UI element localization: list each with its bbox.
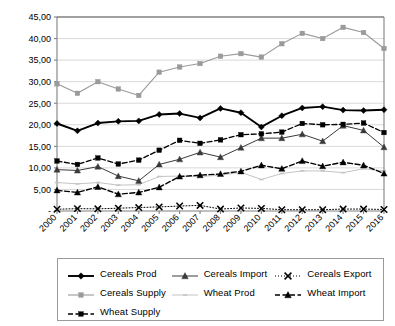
data-point xyxy=(177,111,183,117)
y-axis-tick-label: 5,00 xyxy=(33,185,51,195)
x-axis-tick-label: 2011 xyxy=(262,212,283,233)
data-point xyxy=(239,132,244,137)
data-point xyxy=(341,25,346,30)
data-point xyxy=(341,122,346,127)
legend-label: Cereals Supply xyxy=(100,288,166,298)
x-axis-tick-label: 2003 xyxy=(98,212,119,233)
data-point xyxy=(382,130,387,135)
data-point xyxy=(218,138,223,143)
data-point xyxy=(320,104,326,110)
legend-marker-icon xyxy=(273,268,303,280)
x-axis-tick-label: 2007 xyxy=(180,212,201,233)
data-point xyxy=(239,51,244,56)
legend-item-cereals-prod[interactable]: Cereals Prod xyxy=(66,264,170,283)
y-axis-tick-label: 20,00 xyxy=(28,120,51,130)
y-axis-tick-label: 45,00 xyxy=(28,12,51,22)
data-point xyxy=(381,107,387,113)
data-point xyxy=(259,132,264,137)
y-axis-tick-label: 15,00 xyxy=(28,142,51,152)
legend-label: Cereals Import xyxy=(204,269,268,279)
data-point xyxy=(75,162,80,167)
legend-marker-icon xyxy=(273,287,303,299)
legend-item-wheat-import[interactable]: Wheat Import xyxy=(273,283,377,302)
data-point xyxy=(177,65,182,70)
data-point xyxy=(361,121,366,126)
data-point xyxy=(157,70,162,75)
data-point xyxy=(360,162,366,168)
series-line xyxy=(57,27,384,95)
x-axis-tick-label: 2010 xyxy=(242,212,263,233)
data-point xyxy=(300,121,305,126)
data-point xyxy=(95,163,101,169)
data-point xyxy=(75,91,80,96)
series-cereals-prod xyxy=(54,104,387,134)
data-point xyxy=(156,184,162,190)
data-point xyxy=(157,148,162,153)
data-point xyxy=(238,144,244,150)
legend-marker-icon xyxy=(170,268,200,280)
data-point xyxy=(136,93,141,98)
data-point xyxy=(382,46,387,51)
data-point xyxy=(96,79,101,84)
data-point xyxy=(259,55,264,60)
x-axis-tick-label: 2012 xyxy=(282,212,303,233)
y-axis-tick-label: 40,00 xyxy=(28,34,51,44)
x-axis-tick-label: 2008 xyxy=(201,212,222,233)
legend-item-cereals-export[interactable]: Cereals Export xyxy=(273,264,377,283)
legend-item-wheat-supply[interactable]: Wheat Supply xyxy=(66,302,170,321)
x-axis-tick-label: 2009 xyxy=(221,212,242,233)
legend-label: Cereals Prod xyxy=(100,269,157,279)
chart-legend: Cereals ProdCereals ImportCereals Export… xyxy=(57,258,384,321)
legend-label: Wheat Supply xyxy=(100,307,160,317)
data-point xyxy=(340,107,346,113)
data-point xyxy=(156,111,162,117)
legend-item-cereals-supply[interactable]: Cereals Supply xyxy=(66,283,170,302)
legend-marker-icon xyxy=(66,287,96,299)
legend-label: Cereals Export xyxy=(307,269,371,279)
data-point xyxy=(54,120,60,126)
x-axis-tick-label: 2016 xyxy=(364,212,385,233)
line-chart: -5,0010,0015,0020,0025,0030,0035,0040,00… xyxy=(0,0,395,326)
y-axis-tick-label: 30,00 xyxy=(28,77,51,87)
data-point xyxy=(197,115,203,121)
legend-item-wheat-prod[interactable]: Wheat Prod xyxy=(170,283,274,302)
x-axis-tick-label: 2006 xyxy=(160,212,181,233)
data-point xyxy=(55,82,60,87)
data-point xyxy=(177,138,182,143)
data-point xyxy=(136,158,141,163)
data-point xyxy=(300,31,305,36)
data-point xyxy=(218,54,223,59)
x-axis-tick-label: 2005 xyxy=(139,212,160,233)
legend-item-cereals-import[interactable]: Cereals Import xyxy=(170,264,274,283)
data-point xyxy=(74,128,80,134)
legend-label: Wheat Import xyxy=(307,288,365,298)
x-axis-tick-label: 2001 xyxy=(58,212,79,233)
data-point xyxy=(197,149,203,155)
data-point xyxy=(198,141,203,146)
x-axis-tick-label: 2013 xyxy=(303,212,324,233)
legend-marker-icon xyxy=(66,306,96,318)
series-wheat-import xyxy=(54,158,387,197)
data-point xyxy=(95,184,101,190)
legend-label: Wheat Prod xyxy=(204,288,255,298)
data-point xyxy=(299,105,305,111)
data-point xyxy=(96,156,101,161)
data-point xyxy=(299,131,305,137)
x-axis-tick-label: 2004 xyxy=(119,212,140,233)
data-point xyxy=(361,30,366,35)
data-point xyxy=(299,158,305,164)
data-point xyxy=(280,130,285,135)
x-axis-tick-label: 2014 xyxy=(323,212,344,233)
data-point xyxy=(218,105,224,111)
data-point xyxy=(320,36,325,41)
data-point xyxy=(280,41,285,46)
data-point xyxy=(320,122,325,127)
data-point xyxy=(116,162,121,167)
x-axis-tick-label: 2015 xyxy=(344,212,365,233)
data-point xyxy=(136,118,142,124)
data-point xyxy=(55,159,60,164)
data-point xyxy=(115,118,121,124)
y-axis-tick-label: 10,00 xyxy=(28,163,51,173)
legend-marker-icon xyxy=(170,287,200,299)
series-cereals-supply xyxy=(55,25,387,98)
